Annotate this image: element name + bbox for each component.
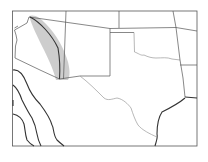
map	[0, 0, 208, 162]
contour-lines	[13, 70, 64, 146]
shaded-region	[29, 15, 70, 80]
